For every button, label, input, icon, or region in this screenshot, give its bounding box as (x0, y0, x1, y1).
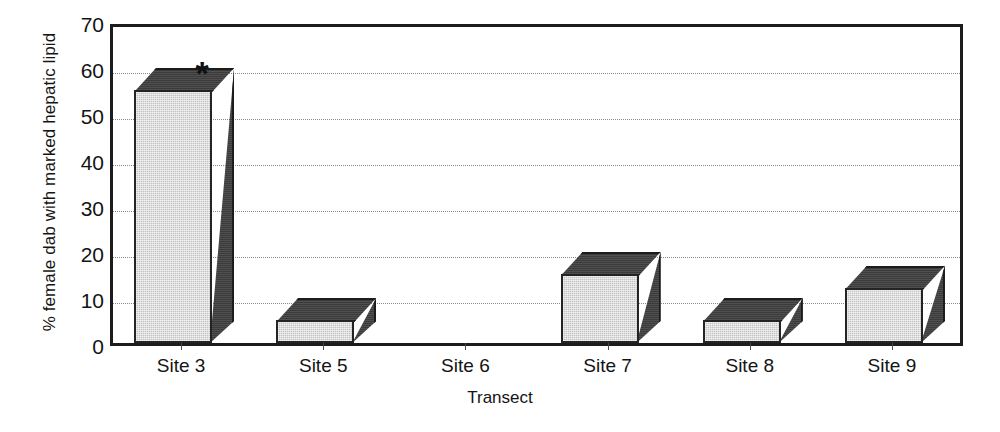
bar-top-face (276, 298, 376, 322)
x-tick-label: Site 9 (817, 355, 967, 377)
y-tick-label: 0 (64, 336, 104, 357)
bar-side-face (210, 68, 234, 343)
y-tick-label: 50 (64, 106, 104, 127)
x-tick (465, 343, 466, 350)
gridline (113, 211, 960, 212)
bar (561, 252, 661, 343)
x-tick (608, 343, 609, 350)
x-tick-label: Site 8 (675, 355, 825, 377)
bar (134, 68, 234, 343)
gridline (113, 73, 960, 74)
x-axis-title: Transect (0, 388, 1000, 408)
x-tick-label: Site 7 (533, 355, 683, 377)
x-tick (181, 343, 182, 350)
bar-top-face (845, 266, 945, 290)
x-tick-label: Site 6 (390, 355, 540, 377)
bar-front-face (276, 320, 354, 343)
y-tick-label: 60 (64, 60, 104, 81)
bar-front-face (561, 274, 639, 343)
bar-front-face (845, 288, 923, 343)
bar-top-face (134, 68, 234, 92)
bar-top-face (703, 298, 803, 322)
y-tick-label: 10 (64, 290, 104, 311)
x-tick (750, 343, 751, 350)
significance-asterisk: * (195, 56, 208, 90)
bar (703, 298, 803, 343)
chart-figure: % female dab with marked hepatic lipid 0… (0, 0, 1000, 432)
x-tick-label: Site 5 (248, 355, 398, 377)
y-tick-label: 70 (64, 14, 104, 35)
x-tick (892, 343, 893, 350)
gridline (113, 119, 960, 120)
gridline (113, 165, 960, 166)
x-tick-label: Site 3 (106, 355, 256, 377)
bar (276, 298, 376, 343)
plot-area: * (110, 24, 963, 346)
y-axis-tick-labels: 010203040506070 (58, 0, 104, 432)
bar-front-face (134, 90, 212, 343)
x-tick (323, 343, 324, 350)
y-tick-label: 30 (64, 198, 104, 219)
bar (845, 266, 945, 343)
y-tick-label: 40 (64, 152, 104, 173)
gridline (113, 303, 960, 304)
gridline (113, 257, 960, 258)
bar-front-face (703, 320, 781, 343)
bar-top-face (561, 252, 661, 276)
y-tick-label: 20 (64, 244, 104, 265)
